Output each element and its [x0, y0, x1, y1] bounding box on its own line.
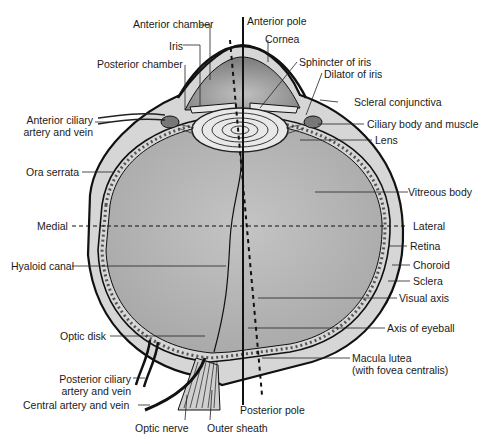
label-cornea: Cornea — [265, 33, 299, 45]
label-dilator-of-iris: Dilator of iris — [324, 68, 382, 80]
label-ora-serrata: Ora serrata — [26, 166, 79, 178]
label-vitreous-body: Vitreous body — [408, 186, 472, 198]
label-posterior-ciliary-2: artery and vein — [20, 385, 131, 397]
label-sclera: Sclera — [413, 275, 443, 287]
label-outer-sheath: Outer sheath — [207, 422, 268, 434]
label-anterior-pole: Anterior pole — [247, 15, 307, 27]
label-visual-axis: Visual axis — [399, 292, 449, 304]
label-lateral: Lateral — [413, 220, 445, 232]
label-sphincter-of-iris: Sphincter of iris — [299, 56, 371, 68]
label-anterior-chamber: Anterior chamber — [133, 18, 214, 30]
label-fovea-centralis: (with fovea centralis) — [352, 364, 448, 376]
label-posterior-chamber: Posterior chamber — [97, 58, 183, 70]
label-anterior-ciliary-1: Anterior ciliary — [20, 114, 93, 126]
vitreous-body — [106, 122, 382, 353]
label-scleral-conjunctiva: Scleral conjunctiva — [354, 96, 442, 108]
label-choroid: Choroid — [413, 259, 450, 271]
label-optic-disk: Optic disk — [60, 330, 106, 342]
label-ciliary-body: Ciliary body and muscle — [367, 118, 478, 130]
label-axis-of-eyeball: Axis of eyeball — [387, 322, 455, 334]
label-anterior-ciliary-2: artery and vein — [20, 126, 93, 138]
ciliary-body-right — [304, 116, 322, 128]
ciliary-body-left — [161, 116, 179, 128]
label-central-artery: Central artery and vein — [23, 399, 129, 411]
label-iris: Iris — [169, 40, 183, 52]
label-macula-lutea: Macula lutea — [352, 352, 412, 364]
label-posterior-ciliary-1: Posterior ciliary — [20, 373, 131, 385]
label-posterior-pole: Posterior pole — [240, 404, 305, 416]
label-retina: Retina — [410, 240, 440, 252]
label-optic-nerve: Optic nerve — [135, 422, 189, 434]
label-lens: Lens — [375, 134, 398, 146]
label-medial: Medial — [37, 220, 68, 232]
label-hyaloid-canal: Hyaloid canal — [11, 260, 74, 272]
